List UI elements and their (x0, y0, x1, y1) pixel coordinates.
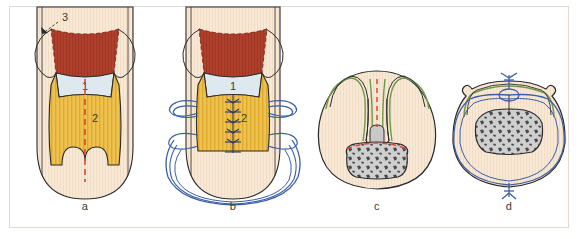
speckled-core-d (475, 109, 542, 155)
panel-b-illustration: 1 2 (158, 7, 308, 207)
speckled-core-c (346, 142, 407, 179)
panel-label-a: a (65, 200, 105, 212)
panel-label-d: d (489, 200, 529, 212)
panel-c-illustration (310, 65, 445, 207)
resection-area-b (199, 29, 267, 77)
resection-area-a (51, 29, 119, 77)
figure-frame: 3 1 2 a (9, 6, 569, 228)
callout-label-3: 3 (62, 11, 68, 23)
panel-label-b: b (213, 200, 253, 212)
panel-c: c (310, 65, 445, 207)
figure-root: 3 1 2 a (0, 0, 580, 239)
panel-b: 1 2 (158, 7, 308, 207)
panel-a-illustration: 3 1 2 (15, 7, 155, 207)
callout-label-1-b: 1 (230, 80, 236, 92)
panel-a: 3 1 2 a (15, 7, 155, 207)
panel-label-c: c (357, 200, 397, 212)
panel-d: d (442, 65, 577, 207)
panel-d-illustration (442, 65, 577, 207)
callout-label-2-a: 2 (92, 112, 98, 124)
callout-label-2-b: 2 (241, 112, 247, 124)
